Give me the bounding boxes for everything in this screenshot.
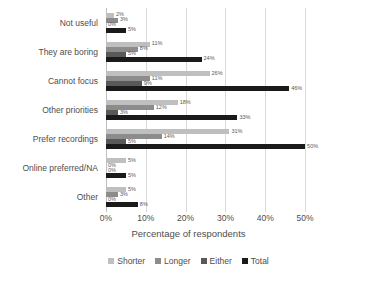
bar-total — [106, 202, 138, 207]
bar-value-label: 5% — [128, 27, 136, 33]
bar-total — [106, 144, 305, 149]
bar-group: 31%14%5%50% — [106, 125, 325, 154]
x-axis-tick-label: 40% — [257, 213, 274, 223]
y-axis-labels: Not usefulThey are boringCannot focusOth… — [0, 8, 102, 212]
legend-item-shorter[interactable]: Shorter — [108, 256, 145, 266]
y-axis-label: Not useful — [60, 18, 98, 28]
y-axis-label: Online preferred/NA — [22, 163, 98, 173]
bar-value-label: 24% — [204, 56, 215, 62]
bar-total — [106, 57, 202, 62]
x-axis-ticks: 0%10%20%30%40%50% — [106, 213, 325, 227]
bar-value-label: 50% — [307, 144, 318, 150]
legend-label: Total — [251, 256, 269, 266]
bar-value-label: 8% — [140, 202, 148, 208]
legend-swatch-icon — [108, 258, 114, 264]
bar-row: 33% — [106, 115, 325, 120]
legend-label: Shorter — [117, 256, 145, 266]
bar-group: 11%8%5%24% — [106, 37, 325, 66]
x-axis-tick-label: 30% — [217, 213, 234, 223]
bar-row: 5% — [106, 28, 325, 33]
bar-chart: Not usefulThey are boringCannot focusOth… — [0, 0, 377, 285]
bar-row: 5% — [106, 173, 325, 178]
x-axis-title: Percentage of respondents — [0, 228, 377, 239]
legend-label: Longer — [164, 256, 190, 266]
bar-total — [106, 173, 126, 178]
y-axis-label: Other priorities — [42, 105, 98, 115]
x-axis-tick-label: 0% — [100, 213, 112, 223]
x-axis-tick-label: 20% — [177, 213, 194, 223]
bar-row: 46% — [106, 86, 325, 91]
legend-item-total[interactable]: Total — [242, 256, 269, 266]
y-axis-label: They are boring — [38, 47, 98, 57]
bar-total — [106, 115, 237, 120]
legend-swatch-icon — [155, 258, 161, 264]
bar-row: 24% — [106, 57, 325, 62]
bar-group: 2%3%0%5% — [106, 8, 325, 37]
bar-value-label: 33% — [239, 115, 250, 121]
legend-item-longer[interactable]: Longer — [155, 256, 190, 266]
bar-group: 18%12%3%33% — [106, 95, 325, 124]
y-axis-label: Prefer recordings — [33, 134, 98, 144]
bar-group: 5%3%0%8% — [106, 183, 325, 212]
bar-group: 26%11%9%46% — [106, 66, 325, 95]
bar-row: 50% — [106, 144, 325, 149]
x-axis-tick-label: 50% — [297, 213, 314, 223]
bar-group: 5%0%0%5% — [106, 154, 325, 183]
y-axis-label: Other — [77, 192, 98, 202]
bar-value-label: 5% — [128, 173, 136, 179]
chart-legend: ShorterLongerEitherTotal — [0, 256, 377, 266]
legend-item-either[interactable]: Either — [201, 256, 232, 266]
x-axis-tick-label: 10% — [137, 213, 154, 223]
bar-value-label: 46% — [291, 86, 302, 92]
bar-total — [106, 28, 126, 33]
y-axis-label: Cannot focus — [48, 76, 98, 86]
legend-swatch-icon — [242, 258, 248, 264]
legend-swatch-icon — [201, 258, 207, 264]
legend-label: Either — [210, 256, 232, 266]
bar-row: 8% — [106, 202, 325, 207]
plot-area: 2%3%0%5%11%8%5%24%26%11%9%46%18%12%3%33%… — [106, 8, 325, 212]
bar-total — [106, 86, 289, 91]
